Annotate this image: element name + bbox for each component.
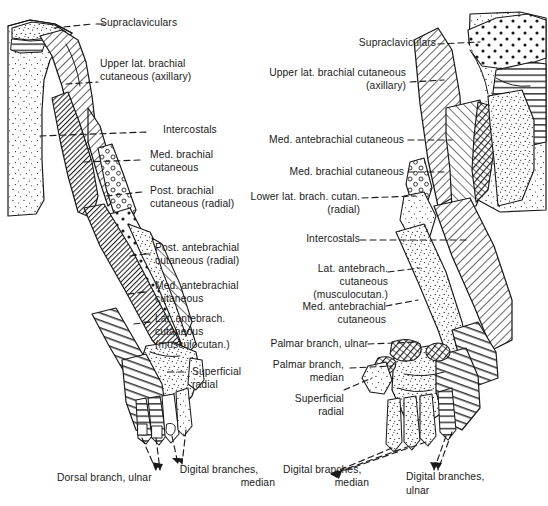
label-digital-branches-median-right-line2: median <box>283 476 369 489</box>
label-superficial-radial-right-line2: radial <box>258 405 344 418</box>
label-lat-antebrach-left-line1: Lat. antebrach. <box>155 312 225 325</box>
label-med-antebrachial-left-line1: Med. antebrachial <box>155 279 239 292</box>
label-upper-lat-brachial-left-line1: Upper lat. brachial <box>100 57 185 70</box>
label-upper-lat-brachial-left-line2: cutaneous (axillary) <box>100 70 191 83</box>
label-supraclaviculars-left: Supraclaviculars <box>100 16 177 29</box>
label-superficial-radial-right-line1: Superficial <box>258 392 344 405</box>
label-digital-branches-median-right-line1: Digital branches, <box>283 463 361 476</box>
label-palmar-branch-ulnar: Palmar branch, ulnar <box>240 337 368 350</box>
label-med-antebrachial-left-line2: cutaneous <box>155 292 203 305</box>
anatomy-figure: Supraclaviculars Upper lat. brachial cut… <box>0 0 548 506</box>
label-post-brachial-left-line1: Post. brachial <box>150 184 214 197</box>
label-superficial-radial-left-line1: Superficial <box>192 365 241 378</box>
label-digital-branches-median-left-line2: median <box>163 476 275 489</box>
label-lat-antebrach-left-line3: (musculocutan.) <box>155 338 230 351</box>
label-supraclaviculars-right: Supraclaviculars <box>290 36 436 49</box>
label-intercostals-left: Intercostals <box>163 123 217 136</box>
label-lat-antebrach-right-line2: cutaneous <box>270 275 388 288</box>
label-palmar-branch-median-line2: median <box>240 371 344 384</box>
label-lat-antebrach-left-line2: cutaneous <box>155 325 203 338</box>
label-lat-antebrach-right-line1: Lat. antebrach. <box>270 262 388 275</box>
label-upper-lat-brachial-right-line2: (axillary) <box>250 79 406 92</box>
label-upper-lat-brachial-right-line1: Upper lat. brachial cutaneous <box>250 66 406 79</box>
label-post-antebrachial-left-line1: Post. antebrachial <box>155 241 239 254</box>
left-figure-posterior <box>8 20 204 445</box>
label-lower-lat-brach-right-line2: (radial) <box>248 203 360 216</box>
label-digital-branches-median-left-line1: Digital branches, <box>163 463 275 476</box>
label-med-brachial-right: Med. brachial cutaneous <box>248 165 404 178</box>
label-med-brachial-left-line2: cutaneous <box>150 161 198 174</box>
label-palmar-branch-median-line1: Palmar branch, <box>240 358 344 371</box>
label-lower-lat-brach-right-line1: Lower lat. brach. cutan. <box>248 190 360 203</box>
label-post-brachial-left-line2: cutaneous (radial) <box>150 197 234 210</box>
label-digital-branches-ulnar-line1: Digital branches, <box>406 470 484 483</box>
label-superficial-radial-left-line2: radial <box>192 378 218 391</box>
label-dorsal-branch-ulnar: Dorsal branch, ulnar <box>57 471 152 484</box>
label-med-antebrachial-right-line2: cutaneous <box>258 313 386 326</box>
label-med-antebrachial-right-top: Med. antebrachial cutaneous <box>248 133 404 146</box>
label-digital-branches-ulnar-line2: ulnar <box>406 484 429 497</box>
label-med-antebrachial-right-line1: Med. antebrachial <box>258 300 386 313</box>
label-post-antebrachial-left-line2: cutaneous (radial) <box>155 254 239 267</box>
label-med-brachial-left-line1: Med. brachial <box>150 148 213 161</box>
label-intercostals-right: Intercostals <box>248 232 360 245</box>
